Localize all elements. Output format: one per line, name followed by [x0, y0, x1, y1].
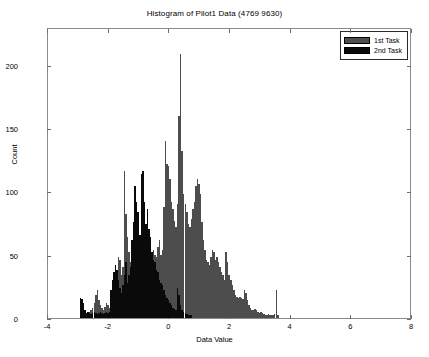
x-tick-mark: [229, 29, 230, 33]
y-tick-label: 0: [0, 315, 18, 324]
x-tick-label: 2: [227, 322, 231, 331]
histogram-bars: [48, 29, 410, 318]
y-tick-label: 150: [0, 125, 18, 134]
y-tick-mark: [407, 192, 411, 193]
x-tick-mark: [290, 315, 291, 319]
chart-title: Histogram of Pilot1 Data (4769 9630): [0, 9, 429, 18]
x-tick-mark: [47, 315, 48, 319]
y-tick-mark: [47, 192, 51, 193]
histogram-bar: [277, 315, 279, 318]
y-tick-label: 200: [0, 61, 18, 70]
legend-swatch: [344, 47, 370, 54]
x-tick-label: -4: [44, 322, 51, 331]
plot-area: [47, 28, 411, 319]
legend-entry: 2nd Task: [344, 46, 404, 55]
y-tick-mark: [407, 256, 411, 257]
y-tick-mark: [47, 319, 51, 320]
x-tick-label: 8: [409, 322, 413, 331]
histogram-bar: [191, 315, 193, 318]
x-tick-mark: [47, 29, 48, 33]
y-tick-mark: [47, 256, 51, 257]
legend-swatch: [344, 37, 370, 44]
x-tick-label: 0: [166, 322, 170, 331]
histogram-figure: Histogram of Pilot1 Data (4769 9630) Cou…: [0, 0, 429, 357]
x-tick-mark: [411, 315, 412, 319]
x-tick-mark: [290, 29, 291, 33]
x-tick-label: 4: [288, 322, 292, 331]
legend-label: 2nd Task: [374, 47, 402, 54]
x-tick-mark: [350, 315, 351, 319]
x-tick-mark: [168, 29, 169, 33]
y-tick-mark: [407, 66, 411, 67]
y-tick-mark: [47, 66, 51, 67]
y-tick-mark: [407, 319, 411, 320]
legend-label: 1st Task: [374, 37, 400, 44]
histogram-bar: [276, 290, 278, 318]
x-tick-mark: [411, 29, 412, 33]
x-axis-label: Data Value: [0, 335, 429, 344]
legend-entry: 1st Task: [344, 36, 404, 45]
chart-legend: 1st Task2nd Task: [340, 31, 408, 60]
y-tick-mark: [47, 129, 51, 130]
y-tick-label: 50: [0, 251, 18, 260]
x-tick-mark: [108, 29, 109, 33]
x-tick-mark: [350, 29, 351, 33]
x-tick-label: 6: [348, 322, 352, 331]
y-tick-mark: [407, 129, 411, 130]
y-tick-label: 100: [0, 188, 18, 197]
x-tick-label: -2: [104, 322, 111, 331]
